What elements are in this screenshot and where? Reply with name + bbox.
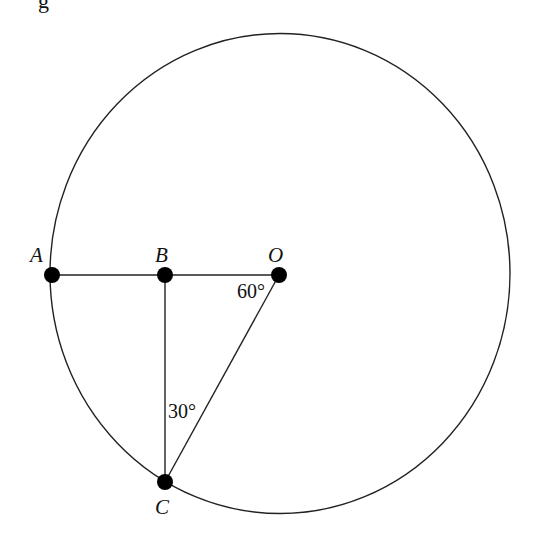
angle-label-O: 60° [237, 280, 265, 302]
point-C [157, 474, 173, 490]
point-B [157, 267, 173, 283]
clipped-heading-text: g [38, 0, 49, 13]
label-O: O [268, 243, 283, 267]
label-B: B [155, 243, 168, 267]
label-A: A [28, 243, 43, 267]
segment-OC [165, 275, 279, 482]
angle-label-C: 30° [168, 400, 196, 422]
label-C: C [155, 495, 170, 519]
point-A [44, 267, 60, 283]
point-O [271, 267, 287, 283]
figure-canvas: g A B O C 60° 30° [0, 0, 538, 537]
geometry-figure: g A B O C 60° 30° [0, 0, 538, 537]
